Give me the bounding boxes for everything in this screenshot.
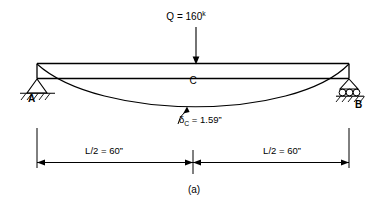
deflection-equals: = <box>189 114 200 125</box>
dimension-label-right: L/2 = 60” <box>263 146 301 156</box>
load-unit-superscript: k <box>202 10 205 17</box>
dimension-extension-lines <box>37 128 349 174</box>
load-symbol: Q <box>166 11 174 22</box>
load-magnitude: 160 <box>186 11 203 22</box>
dimension-line-left <box>37 159 193 165</box>
deflection-label: δC = 1.59” <box>179 115 222 128</box>
dimension-line-right <box>193 159 349 165</box>
beam-midpoint-label: C <box>189 76 196 86</box>
beam-deflection-figure: Q = 160k C δC = 1.59” A B L/2 = 60” L/2 … <box>0 0 389 216</box>
support-label-b: B <box>355 100 362 110</box>
figure-caption: (a) <box>188 185 200 195</box>
support-label-a: A <box>28 94 35 104</box>
load-equals: = <box>174 11 185 22</box>
deflection-value: 1.59” <box>200 114 222 125</box>
dimension-label-left: L/2 = 60” <box>85 146 123 156</box>
load-arrow <box>193 27 200 65</box>
support-pin-left <box>20 79 55 100</box>
load-label: Q = 160k <box>166 11 205 22</box>
